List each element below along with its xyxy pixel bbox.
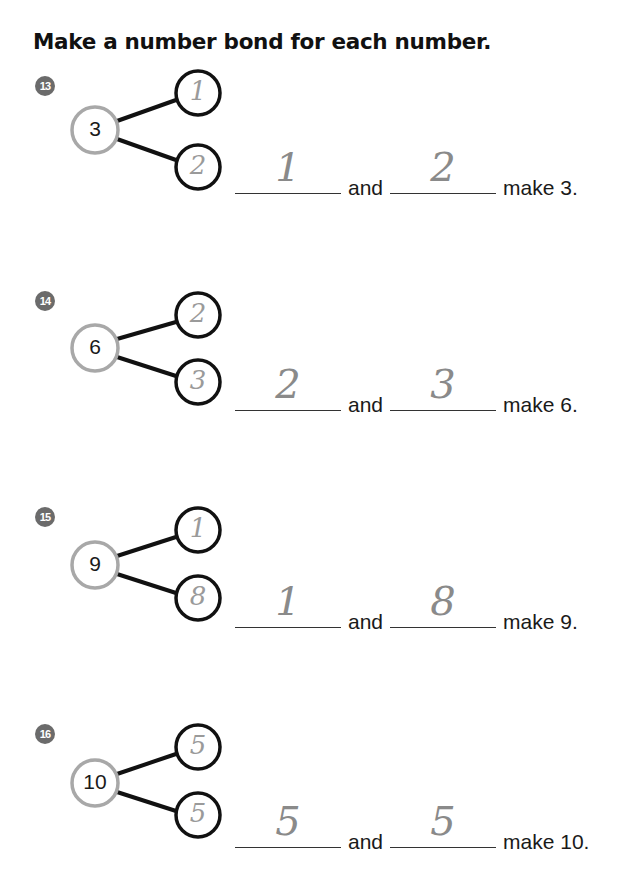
whole-number: 10 <box>71 770 119 794</box>
part-bottom-input[interactable]: 2 <box>176 150 220 180</box>
handwritten-answer: 3 <box>390 364 496 404</box>
and-label: and <box>348 831 383 852</box>
and-label: and <box>348 177 383 198</box>
handwritten-answer: 1 <box>235 147 341 187</box>
whole-number: 9 <box>71 552 119 576</box>
problem-14: 14 6 2 3 2 and 3 make 6. <box>0 218 623 418</box>
answer-blank-1[interactable]: 5 <box>235 821 341 848</box>
part-bottom-input[interactable]: 8 <box>176 581 220 611</box>
problem-15: 15 9 1 8 1 and 8 make 9. <box>0 435 623 635</box>
part-top-input[interactable]: 2 <box>176 298 220 328</box>
make-total-label: make 10. <box>503 831 589 852</box>
answer-blank-2[interactable]: 8 <box>390 601 496 628</box>
connector-line-bottom <box>117 139 176 160</box>
answer-blank-1[interactable]: 1 <box>235 167 341 194</box>
whole-number: 3 <box>71 117 119 141</box>
part-top-input[interactable]: 5 <box>176 730 220 760</box>
part-bottom-input[interactable]: 3 <box>176 365 220 395</box>
number-sentence: 5 and 5 make 10. <box>235 821 589 848</box>
make-total-label: make 9. <box>503 611 578 632</box>
handwritten-answer: 5 <box>390 801 496 841</box>
and-label: and <box>348 611 383 632</box>
problem-16: 16 10 5 5 5 and 5 make 10. <box>0 653 623 853</box>
answer-blank-2[interactable]: 5 <box>390 821 496 848</box>
handwritten-answer: 2 <box>235 364 341 404</box>
number-sentence: 1 and 2 make 3. <box>235 167 578 194</box>
handwritten-answer: 1 <box>235 581 341 621</box>
number-sentence: 1 and 8 make 9. <box>235 601 578 628</box>
answer-blank-1[interactable]: 1 <box>235 601 341 628</box>
answer-blank-1[interactable]: 2 <box>235 384 341 411</box>
whole-number: 6 <box>71 335 119 359</box>
problem-13: 13 3 1 2 1 and 2 make 3. <box>0 0 623 200</box>
handwritten-answer: 5 <box>235 801 341 841</box>
handwritten-answer: 8 <box>390 581 496 621</box>
part-top-input[interactable]: 1 <box>176 76 220 106</box>
number-sentence: 2 and 3 make 6. <box>235 384 578 411</box>
make-total-label: make 6. <box>503 394 578 415</box>
make-total-label: make 3. <box>503 177 578 198</box>
handwritten-answer: 2 <box>390 147 496 187</box>
part-top-input[interactable]: 1 <box>176 513 220 543</box>
answer-blank-2[interactable]: 3 <box>390 384 496 411</box>
and-label: and <box>348 394 383 415</box>
answer-blank-2[interactable]: 2 <box>390 167 496 194</box>
connector-line-top <box>117 100 176 121</box>
part-bottom-input[interactable]: 5 <box>176 798 220 828</box>
